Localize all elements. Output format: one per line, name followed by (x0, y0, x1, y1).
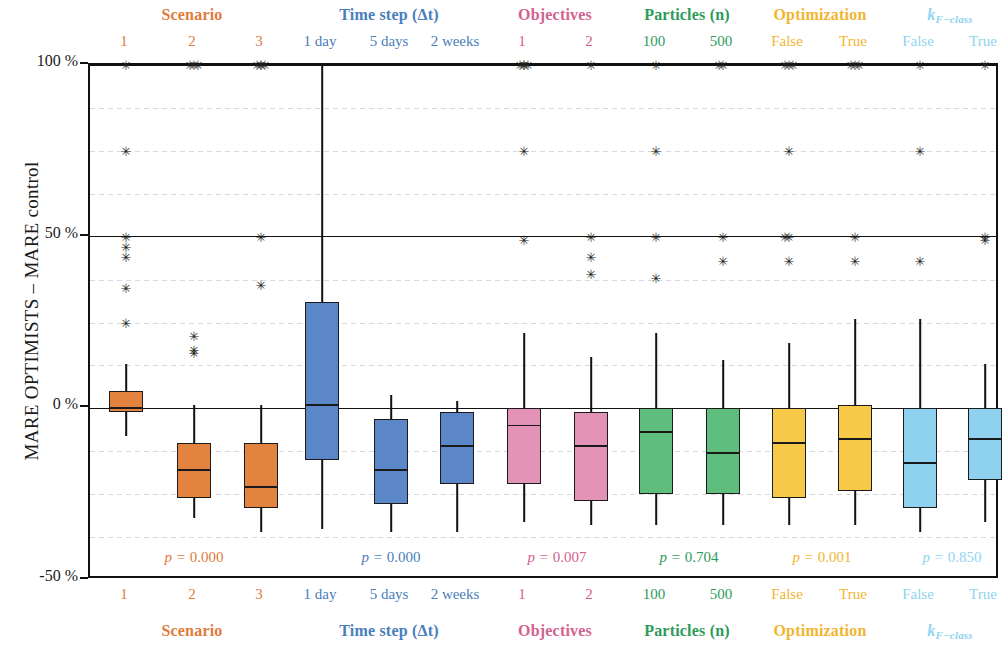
level-label: True (839, 33, 867, 50)
y-tick-mark (80, 577, 88, 579)
p-value-label: p = 0.704 (660, 549, 719, 566)
level-label: 3 (255, 33, 263, 50)
group-title-optimization: Optimization (773, 622, 866, 640)
y-tick-mark (80, 405, 88, 407)
level-label: True (839, 586, 867, 603)
level-label: 2 weeks (431, 33, 480, 50)
level-label: 1 (120, 586, 128, 603)
group-title-scenario: Scenario (161, 6, 222, 24)
level-label: False (902, 586, 934, 603)
chart-root: ScenarioTime step (Δt)ObjectivesParticle… (0, 0, 1005, 648)
group-title-objectives: Objectives (518, 6, 592, 24)
p-value-label: p = 0.001 (793, 549, 852, 566)
p-value-label: p = 0.000 (362, 549, 421, 566)
level-label: 2 (188, 33, 196, 50)
level-label: False (902, 33, 934, 50)
p-value-label: p = 0.000 (165, 549, 224, 566)
group-title-time-step: Time step (Δt) (339, 6, 439, 24)
level-label: 5 days (370, 586, 409, 603)
group-title-kfclass: kF−class (927, 622, 973, 641)
plot-area: ✳✳✳✳✳✳✳✳✳✳✳✳✳✳✳✳✳✳✳✳✳✳✳✳✳✳✳✳✳✳✳✳✳✳✳✳✳✳✳✳… (88, 63, 998, 578)
level-label: False (771, 33, 803, 50)
y-tick-label: -50 % (0, 567, 78, 585)
level-label: 2 (585, 586, 593, 603)
level-label: 2 (188, 586, 196, 603)
y-tick-mark (80, 62, 88, 64)
level-label: 3 (255, 586, 263, 603)
p-value-annotations: p = 0.000p = 0.000p = 0.007p = 0.704p = … (90, 65, 996, 576)
level-label: 1 (518, 586, 526, 603)
y-axis-label: MARE OPTIMISTS – MARE control (21, 111, 43, 511)
level-label: 1 day (304, 586, 337, 603)
level-label: False (771, 586, 803, 603)
group-title-objectives: Objectives (518, 622, 592, 640)
level-label: 1 (120, 33, 128, 50)
group-title-kfclass: kF−class (927, 6, 973, 25)
level-label: 1 day (304, 33, 337, 50)
level-label: 2 weeks (431, 586, 480, 603)
level-label: 500 (710, 586, 733, 603)
p-value-label: p = 0.850 (923, 549, 982, 566)
level-label: 5 days (370, 33, 409, 50)
group-title-time-step: Time step (Δt) (339, 622, 439, 640)
group-title-particles: Particles (n) (644, 6, 730, 24)
level-label: 100 (643, 33, 666, 50)
level-label: 1 (518, 33, 526, 50)
level-label: True (969, 33, 997, 50)
y-tick-label: 100 % (0, 52, 78, 70)
level-label: 100 (643, 586, 666, 603)
p-value-label: p = 0.007 (528, 549, 587, 566)
level-label: True (969, 586, 997, 603)
group-title-particles: Particles (n) (644, 622, 730, 640)
y-tick-mark (80, 234, 88, 236)
level-label: 2 (585, 33, 593, 50)
group-title-scenario: Scenario (161, 622, 222, 640)
group-title-optimization: Optimization (773, 6, 866, 24)
level-label: 500 (710, 33, 733, 50)
